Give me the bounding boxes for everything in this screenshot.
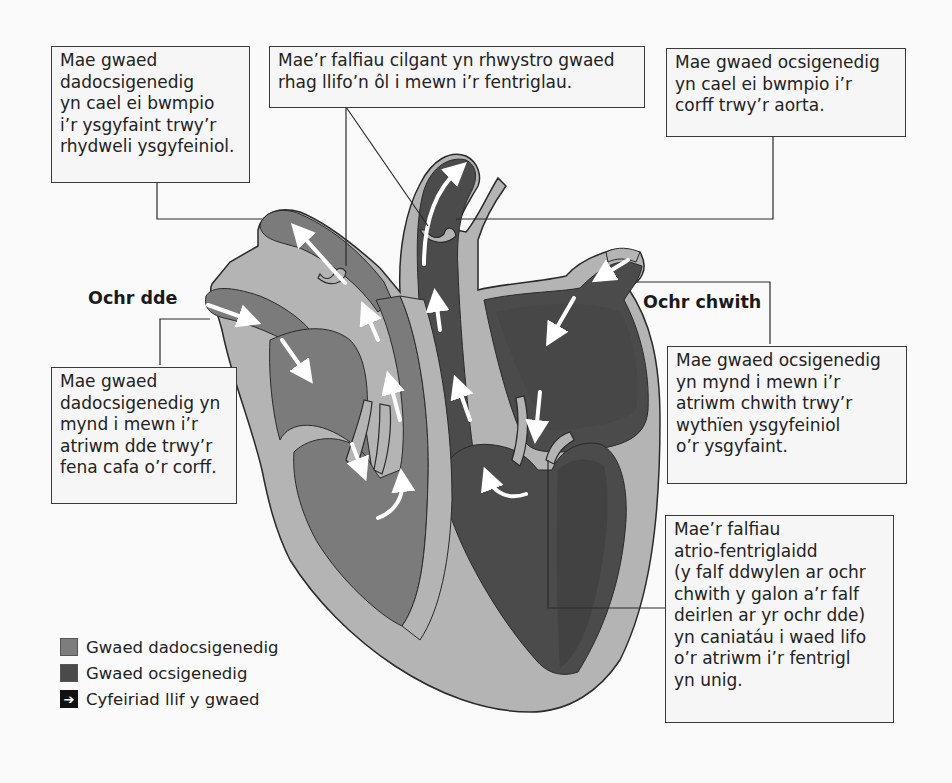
- annotation-line: atrio-fentriglaidd: [674, 541, 885, 563]
- annotation-line: corff trwy’r aorta.: [675, 95, 897, 117]
- annotation-pulmonary-vein: Mae gwaed ocsigenedig yn mynd i mewn i’r…: [667, 346, 907, 484]
- annotation-line: yn mynd i mewn i’r: [676, 372, 898, 394]
- annotation-line: deirlen ar yr ochr dde): [674, 605, 885, 627]
- annotation-line: rhydweli ysgyfeiniol.: [60, 136, 241, 158]
- label-right-side: Ochr dde: [88, 288, 177, 308]
- annotation-line: wythïen ysgyfeiniol: [676, 415, 898, 437]
- label-left-side: Ochr chwith: [643, 292, 761, 312]
- annotation-line: atriwm dde trwy’r: [60, 436, 228, 458]
- legend: Gwaed dadocsigenedig Gwaed ocsigenedig ➔…: [60, 634, 278, 712]
- annotation-line: dadocsigenedig yn: [60, 393, 228, 415]
- annotation-aorta: Mae gwaed ocsigenedig yn cael ei bwmpio …: [666, 48, 906, 137]
- annotation-line: yn unig.: [674, 670, 885, 692]
- annotation-semilunar-valves: Mae’r falfiau cilgant yn rhwystro gwaed …: [269, 46, 645, 108]
- annotation-pulmonary-artery: Mae gwaed dadocsigenedig yn cael ei bwmp…: [51, 46, 250, 183]
- annotation-vena-cava: Mae gwaed dadocsigenedig yn mynd i mewn …: [51, 367, 237, 504]
- annotation-av-valves: Mae’r falfiau atrio-fentriglaidd (y falf…: [665, 515, 894, 723]
- annotation-line: Mae’r falfiau cilgant yn rhwystro gwaed: [278, 50, 636, 72]
- annotation-line: chwith y galon a’r falf: [674, 584, 885, 606]
- annotation-line: o’r ysgyfaint.: [676, 436, 898, 458]
- annotation-line: (y falf ddwylen ar ochr: [674, 562, 885, 584]
- annotation-line: yn caniatáu i waed lifo: [674, 627, 885, 649]
- legend-item-deoxygenated: Gwaed dadocsigenedig: [60, 634, 278, 660]
- annotation-line: yn cael ei bwmpio: [60, 93, 241, 115]
- annotation-line: Mae gwaed ocsigenedig: [676, 350, 898, 372]
- annotation-line: i’r ysgyfaint trwy’r: [60, 115, 241, 137]
- annotation-line: dadocsigenedig: [60, 72, 241, 94]
- annotation-line: Mae’r falfiau: [674, 519, 885, 541]
- annotation-line: Mae gwaed ocsigenedig: [675, 52, 897, 74]
- legend-label: Cyfeiriad llif y gwaed: [86, 690, 260, 709]
- annotation-line: rhag llifo’n ôl i mewn i’r fentriglau.: [278, 72, 636, 94]
- legend-label: Gwaed dadocsigenedig: [86, 638, 278, 657]
- annotation-line: mynd i mewn i’r: [60, 414, 228, 436]
- swatch-dark-grey-icon: [60, 664, 78, 682]
- legend-item-oxygenated: Gwaed ocsigenedig: [60, 660, 278, 686]
- arrow-right-icon: ➔: [60, 690, 78, 708]
- swatch-medium-grey-icon: [60, 638, 78, 656]
- legend-label: Gwaed ocsigenedig: [86, 664, 247, 683]
- annotation-line: Mae gwaed: [60, 50, 241, 72]
- annotation-line: Mae gwaed: [60, 371, 228, 393]
- legend-item-flow-direction: ➔ Cyfeiriad llif y gwaed: [60, 686, 278, 712]
- annotation-line: o’r atriwm i’r fentrigl: [674, 648, 885, 670]
- annotation-line: yn cael ei bwmpio i’r: [675, 74, 897, 96]
- annotation-line: atriwm chwith trwy’r: [676, 393, 898, 415]
- annotation-line: fena cafa o’r corff.: [60, 457, 228, 479]
